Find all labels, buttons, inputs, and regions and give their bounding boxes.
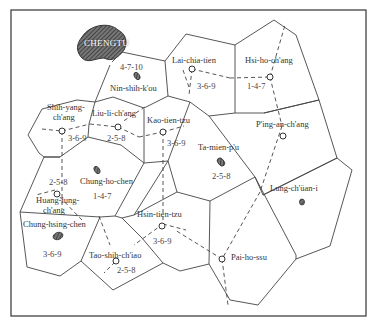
market-label: Chung-ho-chen bbox=[80, 177, 133, 186]
market-label: Huang-lung- bbox=[36, 196, 79, 205]
market-days: 2-5-8 bbox=[117, 265, 135, 275]
market-days: 3-6-9 bbox=[68, 133, 86, 143]
map-canvas bbox=[0, 0, 377, 331]
market-label: Tao-shih-ch'iao bbox=[89, 251, 141, 260]
city-label-chengtu: CHENGTU bbox=[84, 38, 129, 48]
market-label: Chung-hsing-chen bbox=[23, 220, 86, 229]
market-days: 1-4-7 bbox=[93, 191, 111, 201]
market-days: 4-7-10 bbox=[120, 62, 143, 72]
market-days: 1-4-7 bbox=[247, 81, 265, 91]
market-town-points bbox=[54, 66, 286, 264]
market-days: 2-5-8 bbox=[107, 133, 125, 143]
market-label: ch'ang bbox=[53, 113, 75, 122]
market-label: Shih-yang- bbox=[47, 103, 85, 112]
market-label: Kao-tien-tzu bbox=[147, 116, 190, 125]
market-label: P'ing-an-ch'ang bbox=[256, 120, 309, 129]
market-label: Lung-ch'üan-i bbox=[270, 184, 318, 193]
market-label: Hsi-ho-ch'ang bbox=[245, 56, 293, 65]
market-label: ch'ang bbox=[43, 206, 65, 215]
market-label: Liu-li-ch'ang bbox=[92, 109, 136, 118]
market-days: 2-5-8 bbox=[49, 177, 67, 187]
market-days: 3-6-9 bbox=[153, 236, 171, 246]
market-days: 3-6-9 bbox=[43, 249, 61, 259]
market-label: Hsin-tien-tzu bbox=[137, 210, 182, 219]
market-label: Pai-ho-ssu bbox=[231, 253, 267, 262]
market-label: Ta-mien-p'u bbox=[198, 143, 239, 152]
market-map: CHENGTU Nin-shih-k'ou 4-7-10 Lai-chia-ti… bbox=[0, 0, 377, 331]
market-label: Lai-chia-tien bbox=[172, 56, 216, 65]
market-days: 2-5-8 bbox=[212, 171, 230, 181]
trade-routes bbox=[36, 25, 285, 305]
market-days: 3-6-9 bbox=[197, 81, 215, 91]
market-label: Nin-shih-k'ou bbox=[110, 84, 157, 93]
market-days: 3-6-9 bbox=[167, 138, 185, 148]
